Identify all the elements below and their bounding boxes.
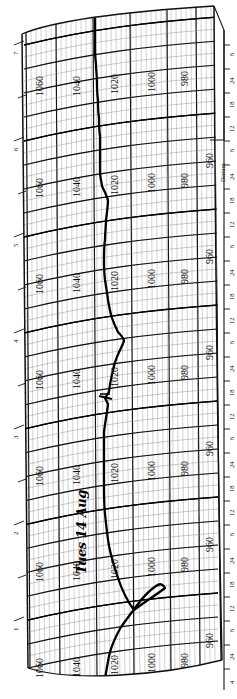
hour-tick-label: 12 xyxy=(229,606,236,613)
pressure-label: 980 xyxy=(180,269,190,284)
pressure-label: 960 xyxy=(205,537,215,552)
pressure-label: 1020 xyxy=(110,271,120,291)
pressure-label: 1040 xyxy=(72,369,82,389)
pressure-label: 1020 xyxy=(110,463,120,483)
hour-tick-label: 6 xyxy=(229,53,236,56)
hour-tick-label: 6 xyxy=(229,629,236,632)
pressure-label: 1020 xyxy=(110,655,120,675)
pressure-label: 1000 xyxy=(147,557,157,577)
chart-canvas xyxy=(0,0,237,699)
hour-tick-label: 18 xyxy=(229,486,236,493)
pressure-label: 1040 xyxy=(72,561,82,581)
hour-tick-label: 6 xyxy=(229,437,236,440)
pressure-label: 1000 xyxy=(147,365,157,385)
day-tick-label: 5 xyxy=(13,244,20,248)
pressure-label: 1020 xyxy=(110,74,120,94)
hour-tick-label: 24 xyxy=(229,174,236,181)
hour-tick-label: 24 xyxy=(229,78,236,85)
pressure-label: 1060 xyxy=(35,562,45,582)
pressure-label: 1000 xyxy=(147,72,157,92)
hour-tick-label: 18 xyxy=(229,198,236,205)
pressure-label: 960 xyxy=(205,441,215,456)
pressure-label: 980 xyxy=(180,557,190,572)
hour-tick-label: 12 xyxy=(229,318,236,325)
pressure-label: 960 xyxy=(205,345,215,360)
pressure-label: 980 xyxy=(180,461,190,476)
pressure-label: 1040 xyxy=(72,273,82,293)
hour-tick-marks xyxy=(224,45,230,669)
chart-paper xyxy=(22,6,222,676)
pressure-label: 960 xyxy=(205,633,215,648)
pressure-label: 1040 xyxy=(72,177,82,197)
hour-tick-label: 4 xyxy=(229,681,236,684)
day-tick-label: 4 xyxy=(13,340,20,344)
hour-tick-label: 6 xyxy=(229,533,236,536)
hour-tick-label: 24 xyxy=(229,270,236,277)
hour-tick-label: 12 xyxy=(229,414,236,421)
day-tick-label: 3 xyxy=(13,436,20,440)
hour-tick-label: 24 xyxy=(229,654,236,661)
hour-tick-label: 24 xyxy=(229,558,236,565)
hour-tick-label: 6 xyxy=(229,245,236,248)
hour-tick-label: 18 xyxy=(229,294,236,301)
pressure-label: 1000 xyxy=(147,653,157,673)
hour-tick-label: 12 xyxy=(229,126,236,133)
datum-label: Datum xyxy=(220,163,227,182)
pressure-label: 960 xyxy=(205,249,215,264)
hour-tick-label: 6 xyxy=(229,149,236,152)
hour-tick-label: 24 xyxy=(229,462,236,469)
pressure-label: 1000 xyxy=(147,269,157,289)
pressure-label: 980 xyxy=(180,365,190,380)
pressure-label: 980 xyxy=(180,71,190,86)
pressure-label: 960 xyxy=(205,153,215,168)
pressure-label: 1040 xyxy=(72,465,82,485)
pressure-label: 1000 xyxy=(147,461,157,481)
pressure-label: 1060 xyxy=(35,76,45,96)
hour-tick-label: 12 xyxy=(229,510,236,517)
pressure-label: 1020 xyxy=(110,367,120,387)
hour-tick-label: 12 xyxy=(229,222,236,229)
hour-tick-label: 24 xyxy=(229,366,236,373)
hour-tick-label: 18 xyxy=(229,582,236,589)
barograph-chart: Datum Tues 14 Aug 1060 1040 1020 1000 98… xyxy=(0,0,237,699)
pressure-label: 980 xyxy=(180,653,190,668)
pressure-label: 1020 xyxy=(110,175,120,195)
hour-tick-label: 6 xyxy=(229,341,236,344)
pressure-label: 1060 xyxy=(35,178,45,198)
day-tick-label: 6 xyxy=(13,148,20,152)
pressure-label: 1000 xyxy=(147,173,157,193)
day-tick-label: 7 xyxy=(13,52,20,56)
day-tick-label: 2 xyxy=(13,532,20,536)
pressure-label: 1040 xyxy=(72,76,82,96)
day-tick-label: 1 xyxy=(13,628,20,632)
pressure-label: 1060 xyxy=(35,658,45,678)
pressure-label: 1060 xyxy=(35,274,45,294)
pressure-label: 1040 xyxy=(72,657,82,677)
pressure-label: 1060 xyxy=(35,370,45,390)
pressure-label: 980 xyxy=(180,173,190,188)
pressure-label: 1060 xyxy=(35,466,45,486)
hour-tick-label: 18 xyxy=(229,390,236,397)
pressure-label: 1020 xyxy=(110,559,120,579)
hour-tick-label: 18 xyxy=(229,102,236,109)
